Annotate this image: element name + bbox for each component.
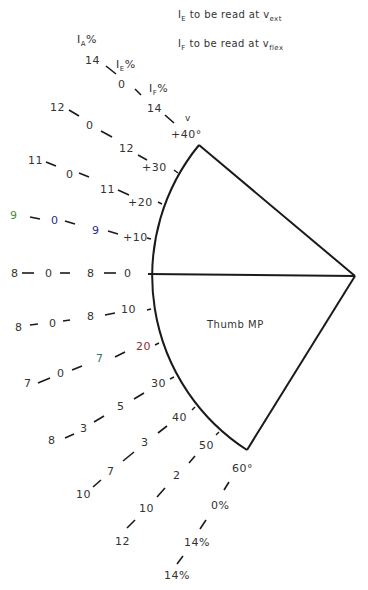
ie-value: 0 [45,268,53,279]
upper-radius [199,145,355,276]
ia-value: 8 [48,435,56,446]
range-arc [152,145,247,450]
if-value: 12 [119,143,134,154]
note-subscript: ext [270,15,282,23]
ia-value: 12 [50,102,65,113]
ie-value: 3 [80,423,88,434]
ia-value: 14 [85,55,100,66]
ia-value: 12 [115,536,130,547]
angle-label: 40 [172,412,187,423]
ia-value: 7 [24,378,32,389]
note-text: to be read at v [186,9,269,20]
header-ie: IE% [116,59,136,73]
note-ie-extension: IE to be read at vext [178,9,282,23]
ie-value: 0 [51,215,59,226]
arc-ticks [147,170,219,435]
header-percent: % [157,82,168,95]
note-subscript: flex [269,44,283,52]
ie-value: 14% [184,537,210,548]
if-value: 9 [92,225,100,236]
if-value: 3 [141,437,149,448]
angle-label: +40° [171,129,202,140]
angle-label: +20 [128,197,153,208]
diagram-lines [0,0,368,590]
angle-label: 20 [136,341,151,352]
ia-value: 10 [76,489,91,500]
if-value: 7 [96,353,104,364]
ia-value: 11 [28,155,43,166]
if-value: 11 [100,184,115,195]
if-value: 8 [87,311,95,322]
joint-label: Thumb MP [207,320,264,330]
ie-value: 10 [139,503,154,514]
ia-value: 8 [15,322,23,333]
header-if: IF% [149,83,168,97]
zero-line [148,274,355,276]
ie-value: 0 [86,120,94,131]
note-if-flexion: IF to be read at vflex [178,38,283,52]
angle-label: 60° [232,463,253,474]
ia-value: 9 [10,210,18,221]
angle-label: 0 [124,268,132,279]
angle-label: 50 [199,440,214,451]
ie-value: 7 [107,466,115,477]
ie-value: 0 [57,368,65,379]
angle-label: +30 [142,162,167,173]
header-percent: % [125,58,136,71]
ie-value: 0 [118,79,126,90]
if-value: 2 [173,470,181,481]
if-value: 14 [147,103,162,114]
lower-radius [247,276,355,450]
if-value: 8 [87,268,95,279]
angle-label: +10 [123,232,148,243]
ia-value: 8 [11,268,19,279]
header-percent: % [86,33,97,46]
angle-label: 10 [121,304,136,315]
ie-value: 0 [66,169,74,180]
if-value: 5 [117,401,125,412]
angle-label: 30 [151,378,166,389]
note-text: to be read at v [186,38,269,49]
if-value: 0% [211,500,229,511]
ia-value: 14% [164,570,190,581]
ie-value: 0 [49,318,57,329]
header-ia: IA% [77,34,97,48]
header-v: v [185,114,191,123]
